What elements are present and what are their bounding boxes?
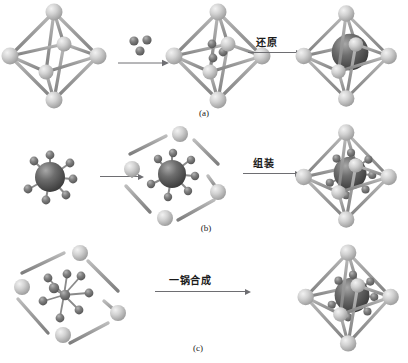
panel-label-c: (c) [178, 343, 218, 353]
cage-with-guests-svg [166, 0, 282, 112]
arrow-label-reduction: 还原 [256, 34, 277, 49]
arrow-label-one-pot: 一锅合成 [169, 272, 211, 287]
arrow-label-assembly: 组装 [253, 155, 274, 170]
guest-atoms-and-arrow [117, 32, 173, 72]
figure-row-c: 一锅合成 [0, 239, 408, 363]
assembled-cage-b-svg [296, 119, 408, 233]
disassembled-cage-svg [118, 124, 234, 236]
empty-cage-svg [2, 0, 118, 112]
arrow-head-c1 [245, 289, 251, 295]
panel-label-a: (a) [184, 108, 224, 118]
panel-label-b: (b) [186, 223, 226, 233]
figure-row-a: 还原 [0, 0, 408, 121]
figure-canvas: 还原 [0, 0, 408, 363]
arrow-line-b2 [243, 173, 295, 174]
metal-complex-svg [12, 139, 92, 217]
scattered-precursors-svg [8, 243, 138, 358]
figure-row-b: 组装 [0, 121, 408, 239]
assembled-cage-c-svg [296, 241, 408, 357]
arrow-line-a2 [248, 52, 296, 53]
arrow-line-c1 [155, 291, 245, 292]
cage-reduced-core-svg [296, 0, 408, 112]
